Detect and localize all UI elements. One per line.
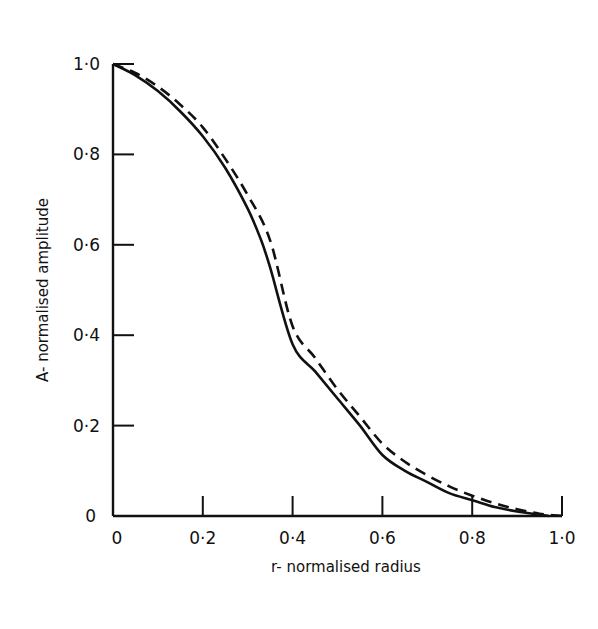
x-axis-label: r- normalised radius bbox=[271, 558, 421, 576]
data-series bbox=[113, 64, 562, 516]
y-tick-label: 0·8 bbox=[73, 144, 100, 164]
x-tick-label: 0 bbox=[112, 528, 123, 548]
dashed-curve bbox=[113, 64, 562, 516]
x-axis-ticks: 00·20·40·60·81·0 bbox=[112, 496, 576, 548]
y-axis-label: A- normalised amplitude bbox=[34, 198, 52, 382]
y-axis-ticks: 00·20·40·60·81·0 bbox=[73, 54, 134, 526]
solid-curve bbox=[113, 64, 549, 516]
amplitude-vs-radius-chart: 00·20·40·60·81·0 00·20·40·60·81·0 r- nor… bbox=[0, 0, 598, 629]
y-tick-label: 0·4 bbox=[73, 325, 100, 345]
y-tick-label: 0·6 bbox=[73, 235, 100, 255]
y-tick-label: 1·0 bbox=[73, 54, 100, 74]
x-tick-label: 0·2 bbox=[189, 528, 216, 548]
axes bbox=[113, 64, 562, 516]
y-tick-label: 0·2 bbox=[73, 416, 100, 436]
x-tick-label: 1·0 bbox=[548, 528, 575, 548]
x-tick-label: 0·6 bbox=[369, 528, 396, 548]
x-tick-label: 0·4 bbox=[279, 528, 306, 548]
x-tick-label: 0·8 bbox=[459, 528, 486, 548]
y-tick-label: 0 bbox=[85, 506, 96, 526]
